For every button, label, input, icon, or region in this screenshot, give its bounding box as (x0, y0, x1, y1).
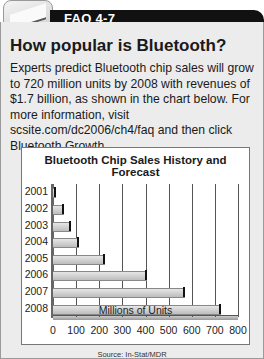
bar-end-cap (77, 237, 79, 247)
bar-end-cap (103, 254, 105, 264)
chart-box: Bluetooth Chip Sales History and Forecas… (21, 147, 250, 345)
chart-title: Bluetooth Chip Sales History and Forecas… (22, 154, 249, 178)
bar-2006 (53, 271, 147, 281)
bar-end-cap (145, 270, 147, 280)
x-axis-label: Millions of Units (22, 304, 249, 316)
bar-end-cap (69, 221, 71, 231)
gridline (192, 184, 193, 317)
x-tick-label: 600 (179, 324, 205, 336)
chart-source: Source: In-Stat/MDR (0, 350, 264, 359)
bar-end-cap (62, 204, 64, 214)
category-label: 2003 (23, 219, 48, 231)
plot-area: 0100200300400500600700800200120022003200… (53, 184, 238, 322)
x-tick-label: 400 (133, 324, 159, 336)
x-tick-label: 0 (40, 324, 66, 336)
x-tick-label: 800 (225, 324, 251, 336)
category-label: 2002 (23, 202, 48, 214)
category-label: 2007 (23, 285, 48, 297)
faq-description: Experts predict Bluetooth chip sales wil… (10, 61, 258, 154)
x-tick-label: 300 (109, 324, 135, 336)
bar-end-cap (54, 187, 56, 197)
bar-end-cap (183, 287, 185, 297)
gridline (238, 184, 239, 317)
bar-2004 (53, 238, 79, 248)
category-label: 2004 (23, 235, 48, 247)
x-tick-label: 200 (86, 324, 112, 336)
bar-2005 (53, 255, 105, 265)
bar-2007 (53, 288, 185, 298)
category-label: 2006 (23, 268, 48, 280)
x-tick-label: 700 (202, 324, 228, 336)
gridline (215, 184, 216, 317)
category-label: 2001 (23, 185, 48, 197)
faq-title: How popular is Bluetooth? (10, 36, 226, 56)
x-tick-label: 500 (156, 324, 182, 336)
x-tick-label: 100 (63, 324, 89, 336)
category-label: 2005 (23, 252, 48, 264)
